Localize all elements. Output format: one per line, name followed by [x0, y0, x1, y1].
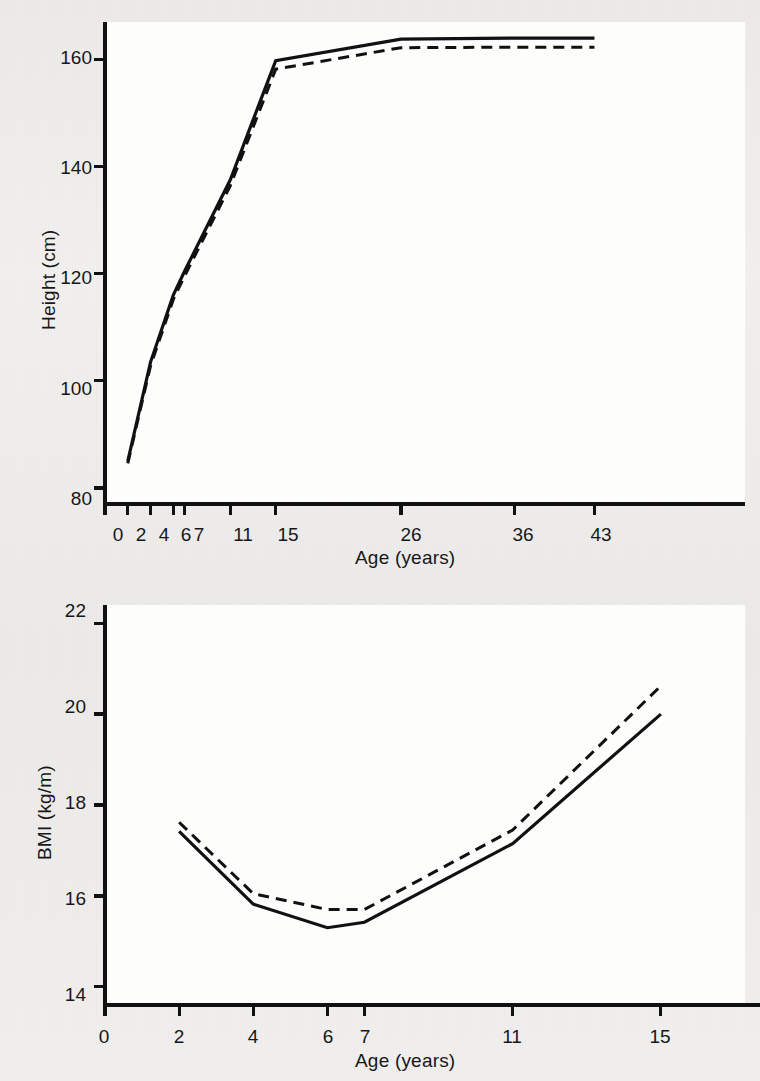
height-yaxis-title: Height (cm)	[38, 230, 60, 330]
bmi-ytick-label-22: 22	[40, 600, 86, 622]
bmi-ytick-label-20: 20	[40, 696, 86, 718]
bmi-ytick-label-14: 14	[40, 984, 86, 1006]
height-xtick-label-26: 26	[391, 524, 431, 546]
height-ytick-label-100: 100	[46, 378, 92, 400]
bmi-ytick-label-16: 16	[40, 888, 86, 910]
height-chart-plot	[0, 0, 760, 560]
height-xtick-label-36: 36	[503, 524, 543, 546]
height-xtick-label-11: 11	[223, 524, 263, 546]
bmi-xaxis-title: Age (years)	[355, 1050, 455, 1072]
bmi-xtick-label-2: 2	[164, 1026, 194, 1048]
bmi-xtick-label-0: 0	[89, 1026, 119, 1048]
height-xtick-label-7: 7	[184, 524, 214, 546]
height-ytick-label-160: 160	[46, 47, 92, 69]
bmi-chart-plot	[0, 560, 760, 1081]
bmi-xtick-label-4: 4	[238, 1026, 268, 1048]
bmi-xtick-label-7: 7	[350, 1026, 380, 1048]
bmi-vs-age-chart: 22 20 18 16 14 0 2 4 6 7 11 15 Age (year…	[0, 560, 760, 1081]
height-xtick-label-43: 43	[581, 524, 621, 546]
bmi-xtick-label-11: 11	[492, 1026, 532, 1048]
bmi-xtick-label-6: 6	[313, 1026, 343, 1048]
height-xtick-label-15: 15	[268, 524, 308, 546]
bmi-xtick-label-15: 15	[640, 1026, 680, 1048]
height-ytick-label-140: 140	[46, 157, 92, 179]
height-ytick-label-80: 80	[46, 488, 92, 510]
height-vs-age-chart: 160 140 120 100 80 0 2 4 6 7 11 15 26 36…	[0, 0, 760, 560]
bmi-yaxis-title: BMI (kg/m)	[34, 765, 56, 860]
